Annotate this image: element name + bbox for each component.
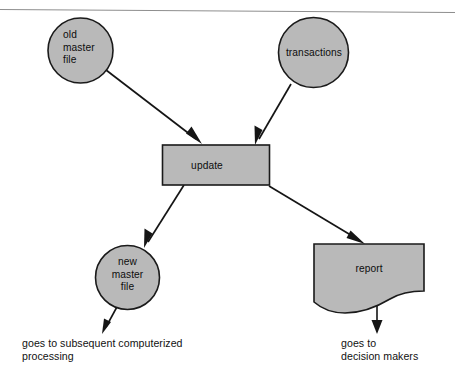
report-label: report	[355, 263, 382, 274]
arrow-head-icon	[347, 231, 366, 245]
flow-arrow-report-to-caption	[372, 304, 383, 334]
new-master-file-label-line1: new	[118, 256, 138, 267]
transactions-label: transactions	[286, 47, 342, 58]
data-flow-diagram: old master file transactions update new …	[0, 0, 455, 384]
new-master-file-label-line2: master	[112, 269, 144, 280]
caption-new-master-file-output: goes to subsequent computerized processi…	[22, 337, 183, 362]
diagram-canvas-container: old master file transactions update new …	[0, 0, 455, 384]
caption-report-output: goes to decision makers	[341, 337, 418, 362]
node-new-master-file[interactable]: new master file	[96, 246, 160, 310]
node-old-master-file[interactable]: old master file	[48, 18, 113, 83]
flow-arrow-oldmaster-to-update	[106, 70, 202, 144]
arrow-head-icon	[372, 320, 383, 334]
flow-arrow-newmaster-to-caption	[102, 305, 118, 334]
caption-report-line2: decision makers	[341, 350, 418, 362]
node-report[interactable]: report	[314, 244, 424, 313]
flow-arrow-update-to-newmaster	[144, 185, 184, 248]
new-master-file-label-line3: file	[121, 281, 135, 292]
flow-arrow-transactions-to-update	[255, 84, 292, 145]
top-divider-rule	[0, 10, 455, 13]
caption-newmaster-line2: processing	[22, 350, 74, 362]
flow-arrow-update-to-report	[269, 186, 365, 244]
report-document-shape[interactable]	[314, 244, 424, 313]
node-transactions[interactable]: transactions	[279, 18, 349, 88]
caption-report-line1: goes to	[341, 337, 376, 349]
old-master-file-label-line2: master	[63, 42, 95, 53]
caption-newmaster-line1: goes to subsequent computerized	[22, 337, 183, 349]
arrow-head-icon	[186, 127, 202, 145]
old-master-file-label-line1: old	[63, 29, 77, 40]
old-master-file-label-line3: file	[63, 54, 77, 65]
node-update[interactable]: update	[163, 145, 270, 185]
update-label: update	[191, 160, 223, 171]
